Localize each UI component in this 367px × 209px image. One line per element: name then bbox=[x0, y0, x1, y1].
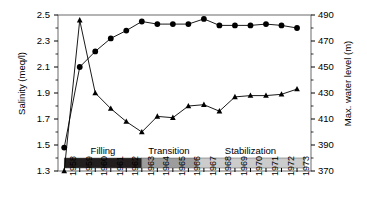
y-tick-label-right: 490 bbox=[318, 9, 344, 20]
y-tick-label-left: 1.7 bbox=[18, 113, 50, 124]
data-point bbox=[154, 113, 160, 118]
x-tick-label: 1960 bbox=[99, 156, 109, 176]
x-tick-label: 1969 bbox=[239, 156, 249, 176]
y-tick-label-left: 2.5 bbox=[18, 9, 50, 20]
x-tick-label: 1971 bbox=[270, 156, 280, 176]
y-tick-label-left: 1.5 bbox=[18, 139, 50, 150]
y-tick-label-right: 370 bbox=[318, 165, 344, 176]
y-tick-label-right: 450 bbox=[318, 61, 344, 72]
y-tick-label-right: 390 bbox=[318, 139, 344, 150]
y-tick-label-left: 1.3 bbox=[18, 165, 50, 176]
data-point bbox=[154, 21, 160, 27]
data-point bbox=[201, 16, 207, 22]
data-point bbox=[201, 102, 207, 107]
data-point bbox=[294, 86, 300, 91]
chart-figure: Salinity (meq/l) Max. water level (m) 1.… bbox=[0, 0, 367, 209]
data-point bbox=[232, 23, 238, 29]
data-point bbox=[123, 119, 129, 124]
data-point bbox=[123, 28, 129, 34]
x-tick-label: 1966 bbox=[192, 156, 202, 176]
data-point bbox=[77, 64, 83, 70]
x-tick-label: 1964 bbox=[161, 156, 171, 176]
y-tick-label-left: 2.1 bbox=[18, 61, 50, 72]
x-tick-label: 1967 bbox=[208, 156, 218, 176]
data-point bbox=[248, 23, 254, 29]
y-tick-label-right: 410 bbox=[318, 113, 344, 124]
x-tick-label: 1963 bbox=[146, 156, 156, 176]
data-point bbox=[294, 25, 300, 31]
phase-band-label: Stabilization bbox=[200, 145, 300, 156]
data-point bbox=[108, 36, 114, 42]
data-point bbox=[170, 21, 176, 27]
x-tick-label: 1970 bbox=[254, 156, 264, 176]
data-point bbox=[185, 21, 191, 27]
y-tick-label-right: 430 bbox=[318, 87, 344, 98]
series-line-0 bbox=[64, 19, 297, 148]
data-point bbox=[139, 19, 145, 25]
y-tick-label-left: 2.3 bbox=[18, 35, 50, 46]
y-tick-label-left: 1.9 bbox=[18, 87, 50, 98]
y-tick-label-right: 470 bbox=[318, 35, 344, 46]
x-tick-label: 1968 bbox=[223, 156, 233, 176]
data-point bbox=[92, 90, 98, 95]
x-tick-label: 1958 bbox=[68, 156, 78, 176]
x-tick-label: 1962 bbox=[130, 156, 140, 176]
data-point bbox=[92, 49, 98, 55]
data-point bbox=[263, 21, 269, 27]
x-tick-label: 1961 bbox=[115, 156, 125, 176]
x-tick-label: 1959 bbox=[84, 156, 94, 176]
data-point bbox=[217, 23, 223, 29]
x-tick-label: 1973 bbox=[301, 156, 311, 176]
data-point bbox=[279, 23, 285, 29]
data-point bbox=[77, 17, 83, 22]
x-tick-label: 1972 bbox=[286, 156, 296, 176]
plot-area bbox=[0, 0, 367, 209]
x-tick-label: 1965 bbox=[177, 156, 187, 176]
